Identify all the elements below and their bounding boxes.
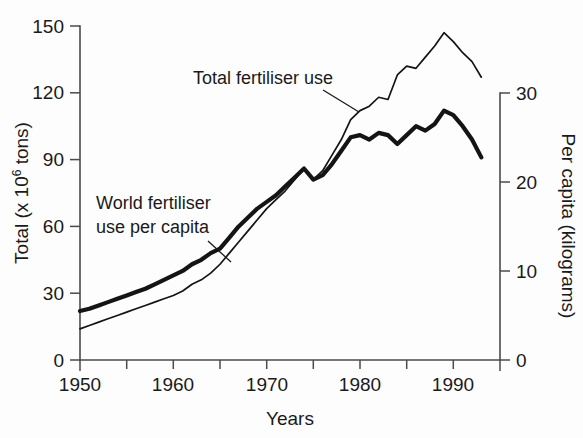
- left-tick-label-60: 60: [43, 216, 64, 237]
- annotation-label-world-fertiliser-line2: use per capita: [96, 217, 210, 237]
- x-axis-title: Years: [266, 408, 314, 429]
- right-axis-title: Per capita (kilograms): [558, 134, 579, 319]
- left-tick-label-90: 90: [43, 149, 64, 170]
- x-tick-label-1970: 1970: [246, 374, 288, 395]
- left-tick-label-150: 150: [32, 16, 64, 37]
- right-tick-label-30: 30: [516, 83, 537, 104]
- annotation-label-world-fertiliser-line1: World fertiliser: [96, 193, 211, 213]
- right-tick-label-0: 0: [516, 350, 527, 371]
- chart-svg: 0 30 60 90 120 150 Total (x 106 tons) 0 …: [0, 0, 583, 438]
- fertiliser-use-chart: 0 30 60 90 120 150 Total (x 106 tons) 0 …: [0, 0, 583, 438]
- left-axis-title-prefix: Total (x 10: [11, 176, 32, 264]
- left-axis-title: Total (x 106 tons): [10, 122, 32, 264]
- left-axis-title-suffix: tons): [11, 122, 32, 170]
- left-tick-label-0: 0: [53, 350, 64, 371]
- chart-background: [0, 0, 583, 438]
- x-tick-label-1980: 1980: [339, 374, 381, 395]
- right-tick-label-10: 10: [516, 261, 537, 282]
- left-tick-label-30: 30: [43, 283, 64, 304]
- annotation-label-total-fertiliser-use: Total fertiliser use: [193, 68, 333, 88]
- x-tick-label-1990: 1990: [432, 374, 474, 395]
- right-tick-label-20: 20: [516, 172, 537, 193]
- x-tick-label-1950: 1950: [59, 374, 101, 395]
- left-tick-label-120: 120: [32, 82, 64, 103]
- x-tick-label-1960: 1960: [152, 374, 194, 395]
